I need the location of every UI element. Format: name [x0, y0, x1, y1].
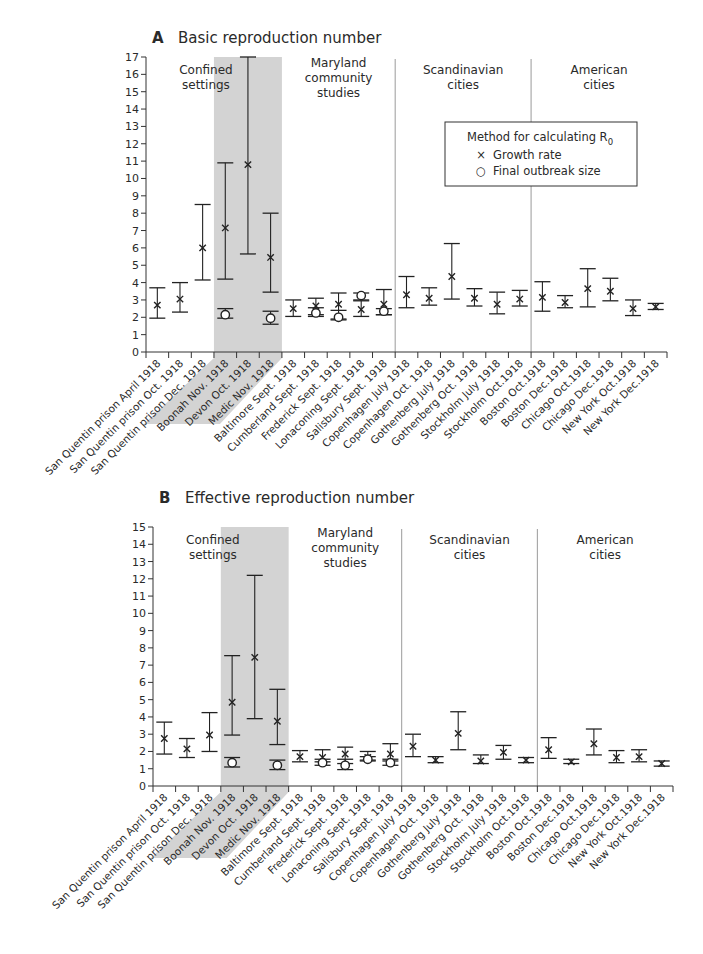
group-label: Confined	[186, 533, 240, 547]
data-point-growth-rate	[179, 739, 195, 758]
y-tick-label: 8	[139, 642, 146, 655]
data-point-growth-rate	[450, 712, 466, 750]
data-point-growth-rate	[648, 303, 664, 310]
circle-marker-icon	[318, 758, 326, 766]
y-tick-label: 7	[139, 659, 146, 672]
circle-marker-icon	[380, 307, 388, 315]
y-tick-label: 2	[139, 745, 146, 758]
circle-marker-icon	[334, 313, 342, 321]
y-tick-label: 13	[125, 120, 139, 133]
chart-canvas: ConfinedsettingsMarylandcommunitystudies…	[0, 0, 703, 954]
data-point-final-outbreak-size	[331, 310, 347, 321]
legend: Method for calculating R0×Growth rate○Fi…	[445, 122, 637, 186]
data-point-growth-rate	[489, 292, 505, 314]
data-point-growth-rate	[428, 757, 444, 764]
y-tick-label: 10	[125, 172, 139, 185]
data-point-growth-rate	[172, 283, 188, 313]
data-point-growth-rate	[495, 745, 511, 759]
data-point-growth-rate	[557, 296, 573, 308]
panel-title: Effective reproduction number	[185, 489, 415, 507]
data-point-growth-rate	[421, 288, 437, 305]
circle-marker-icon	[273, 761, 281, 769]
y-tick-label: 2	[132, 311, 139, 324]
group-label: cities	[447, 78, 479, 92]
data-point-growth-rate	[202, 713, 218, 752]
y-tick-label: 12	[125, 138, 139, 151]
data-point-final-outbreak-size	[308, 308, 324, 317]
circle-marker-icon	[364, 755, 372, 763]
data-point-final-outbreak-size	[337, 759, 353, 769]
data-point-growth-rate	[285, 300, 301, 316]
data-point-growth-rate	[353, 301, 369, 317]
data-point-growth-rate	[518, 757, 534, 763]
legend-title-subscript: 0	[608, 137, 613, 147]
y-tick-label: 14	[132, 538, 146, 551]
group-label: Confined	[179, 63, 233, 77]
panel-b: ConfinedsettingsMarylandcommunitystudies…	[50, 489, 673, 911]
legend-circle-icon: ○	[476, 164, 486, 178]
y-tick-label: 4	[139, 711, 146, 724]
y-tick-label: 5	[132, 259, 139, 272]
data-point-growth-rate	[473, 755, 489, 764]
y-tick-label: 16	[125, 68, 139, 81]
panel-letter: B	[159, 489, 170, 507]
group-label: community	[305, 71, 373, 85]
y-tick-label: 1	[139, 763, 146, 776]
group-label: cities	[454, 548, 486, 562]
data-point-growth-rate	[602, 278, 618, 301]
panel-title: Basic reproduction number	[178, 29, 382, 47]
y-tick-label: 6	[132, 242, 139, 255]
group-label: settings	[189, 548, 237, 562]
data-point-growth-rate	[541, 738, 557, 759]
group-label: Scandinavian	[429, 533, 509, 547]
circle-marker-icon	[341, 761, 349, 769]
data-point-final-outbreak-size	[376, 307, 392, 315]
data-point-growth-rate	[292, 751, 308, 762]
y-tick-label: 4	[132, 277, 139, 290]
circle-marker-icon	[386, 758, 394, 766]
data-point-growth-rate	[631, 750, 647, 762]
circle-marker-icon	[312, 309, 320, 317]
legend-item-label: Final outbreak size	[493, 164, 601, 178]
group-label: Maryland	[317, 526, 373, 540]
y-tick-label: 11	[125, 155, 139, 168]
reproduction-number-figure: ConfinedsettingsMarylandcommunitystudies…	[0, 0, 703, 954]
data-point-final-outbreak-size	[360, 755, 376, 763]
data-point-final-outbreak-size	[315, 758, 331, 766]
y-tick-label: 8	[132, 207, 139, 220]
group-label: Maryland	[311, 56, 367, 70]
data-point-growth-rate	[512, 290, 528, 306]
group-label: cities	[589, 548, 621, 562]
y-tick-label: 9	[132, 190, 139, 203]
panel-letter: A	[152, 29, 164, 47]
group-label: cities	[583, 78, 615, 92]
group-label: American	[570, 63, 627, 77]
data-point-growth-rate	[534, 282, 550, 312]
group-label: American	[577, 533, 634, 547]
data-point-growth-rate	[444, 244, 460, 300]
y-tick-label: 0	[132, 346, 139, 359]
y-tick-label: 15	[125, 86, 139, 99]
data-point-growth-rate	[625, 300, 641, 316]
data-point-growth-rate	[149, 288, 165, 318]
group-label: Scandinavian	[423, 63, 503, 77]
group-label: studies	[317, 86, 360, 100]
y-tick-label: 1	[132, 329, 139, 342]
data-point-growth-rate	[563, 759, 579, 765]
y-tick-label: 0	[139, 780, 146, 793]
legend-item-label: Growth rate	[493, 148, 562, 162]
group-label: settings	[182, 78, 230, 92]
data-point-growth-rate	[466, 289, 482, 306]
y-tick-label: 5	[139, 694, 146, 707]
y-tick-label: 9	[139, 625, 146, 638]
group-label: studies	[324, 556, 367, 570]
y-tick-label: 10	[132, 607, 146, 620]
data-point-growth-rate	[399, 277, 415, 308]
y-tick-label: 13	[132, 556, 146, 569]
y-tick-label: 15	[132, 521, 146, 534]
data-point-growth-rate	[580, 269, 596, 307]
data-point-growth-rate	[195, 205, 211, 280]
group-label: community	[311, 541, 379, 555]
data-point-growth-rate	[405, 734, 421, 756]
y-tick-label: 17	[125, 51, 139, 64]
